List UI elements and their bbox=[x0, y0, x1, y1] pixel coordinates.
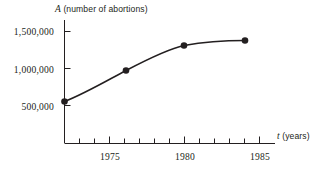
x-tick-label-1975: 1975 bbox=[100, 151, 120, 162]
data-point bbox=[61, 98, 68, 105]
y-axis-title: A (number of abortions) bbox=[55, 4, 148, 14]
data-curve bbox=[65, 41, 246, 102]
data-point bbox=[242, 37, 249, 44]
y-axis-unit: (number of abortions) bbox=[63, 4, 147, 14]
data-point bbox=[123, 67, 130, 74]
y-tick-label-1500000: 1,500,000 bbox=[8, 26, 54, 37]
y-tick-label-500000: 500,000 bbox=[8, 101, 54, 112]
x-axis-variable: t bbox=[277, 131, 280, 141]
x-axis-title: t (years) bbox=[277, 131, 310, 141]
x-tick-label-1980: 1980 bbox=[175, 151, 195, 162]
data-point-markers bbox=[61, 37, 248, 105]
x-axis-ticks bbox=[80, 137, 260, 144]
x-axis-unit: (years) bbox=[282, 131, 309, 141]
x-tick-label-1985: 1985 bbox=[250, 151, 270, 162]
chart-figure: A (number of abortions) t (years) 1,500,… bbox=[0, 0, 321, 177]
y-axis-ticks bbox=[65, 32, 71, 106]
data-point bbox=[181, 42, 188, 49]
y-tick-label-1000000: 1,000,000 bbox=[8, 64, 54, 75]
y-axis-variable: A bbox=[55, 4, 61, 14]
